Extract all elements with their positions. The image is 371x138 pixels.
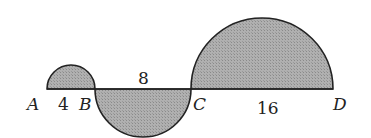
semicircle-bc — [95, 89, 191, 137]
semicircle-ab — [47, 65, 95, 89]
semicircle-diagram: A 4 B 8 C 16 D — [0, 0, 371, 138]
length-label-cd: 16 — [257, 98, 279, 118]
length-label-bc: 8 — [138, 68, 149, 88]
point-label-b: B — [78, 94, 92, 114]
point-label-a: A — [25, 94, 39, 114]
point-label-c: C — [193, 94, 206, 114]
length-label-ab: 4 — [58, 94, 69, 114]
point-label-d: D — [332, 94, 347, 114]
semicircle-cd — [191, 18, 333, 89]
